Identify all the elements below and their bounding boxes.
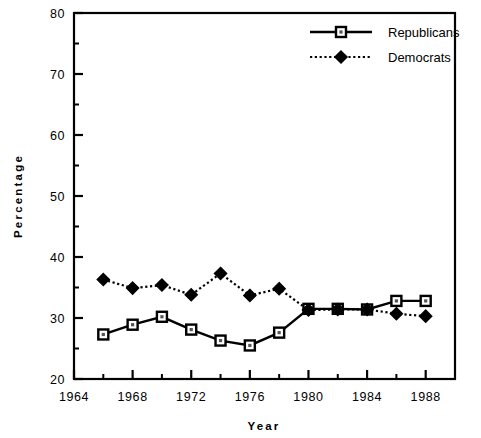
- data-point: [244, 289, 256, 301]
- legend-entry: Republicans: [310, 25, 460, 40]
- y-axis-ticks: [74, 13, 83, 379]
- series-line: [103, 273, 425, 316]
- data-point: [157, 312, 167, 322]
- y-tick-label: 70: [50, 68, 65, 82]
- x-axis-tick-labels: 1964196819721976198019841988: [59, 390, 441, 404]
- data-point: [273, 283, 285, 295]
- data-point: [126, 282, 138, 294]
- data-point: [216, 336, 226, 346]
- series-line: [103, 301, 425, 346]
- chart-legend: RepublicansDemocrats: [310, 25, 460, 65]
- legend-marker: [336, 27, 346, 37]
- y-tick-label: 30: [50, 312, 65, 326]
- legend-entry: Democrats: [310, 50, 451, 65]
- data-point: [98, 329, 108, 339]
- y-tick-label: 40: [50, 251, 65, 265]
- data-point: [390, 308, 402, 320]
- data-point: [421, 296, 431, 306]
- x-tick-label: 1972: [176, 390, 206, 404]
- y-tick-label: 50: [50, 190, 65, 204]
- data-series-layer: [97, 267, 432, 350]
- y-tick-label: 60: [50, 129, 65, 143]
- data-point: [391, 296, 401, 306]
- legend-label: Republicans: [388, 25, 460, 40]
- y-axis-title: Percentage: [12, 154, 24, 238]
- x-axis-ticks: [74, 370, 455, 379]
- y-tick-label: 20: [50, 373, 65, 387]
- x-tick-label: 1988: [411, 390, 441, 404]
- series-republicans: [98, 296, 430, 351]
- chart-container: 20304050607080 1964196819721976198019841…: [0, 0, 481, 438]
- y-axis-tick-labels: 20304050607080: [50, 7, 65, 387]
- data-point: [128, 320, 138, 330]
- x-tick-label: 1964: [59, 390, 89, 404]
- series-democrats: [97, 267, 432, 322]
- y-tick-label: 80: [50, 7, 65, 21]
- legend-marker: [335, 51, 347, 63]
- x-tick-label: 1968: [118, 390, 148, 404]
- x-tick-label: 1984: [352, 390, 382, 404]
- data-point: [186, 325, 196, 335]
- x-axis-title: Year: [247, 420, 280, 432]
- data-point: [156, 279, 168, 291]
- line-chart: 20304050607080 1964196819721976198019841…: [0, 0, 481, 438]
- data-point: [245, 340, 255, 350]
- legend-label: Democrats: [388, 50, 451, 65]
- x-tick-label: 1976: [235, 390, 265, 404]
- data-point: [97, 273, 109, 285]
- data-point: [419, 310, 431, 322]
- x-tick-label: 1980: [293, 390, 323, 404]
- data-point: [274, 328, 284, 338]
